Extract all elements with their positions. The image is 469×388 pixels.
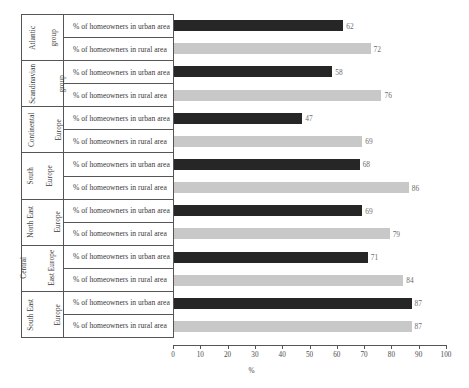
bar-urban xyxy=(174,205,362,216)
series-label: % of homeowners in urban area xyxy=(64,153,173,176)
series-label: % of homeowners in rural area xyxy=(64,38,173,60)
bar-value-label: 86 xyxy=(409,183,419,192)
bar-row: 47 xyxy=(174,113,302,124)
bar-rural xyxy=(174,321,412,332)
bar-urban xyxy=(174,159,360,170)
bar-row: 72 xyxy=(174,43,371,54)
x-axis-tick-label: 30 xyxy=(251,351,258,359)
x-axis-tick xyxy=(337,345,338,349)
bar-rural xyxy=(174,182,409,193)
category-name-cell: South EastEurope xyxy=(22,292,64,337)
series-label-cell: % of homeowners in urban area% of homeow… xyxy=(64,153,173,198)
bar-value-label: 68 xyxy=(360,160,370,169)
bar-row: 58 xyxy=(174,66,332,77)
series-label-cell: % of homeowners in urban area% of homeow… xyxy=(64,292,173,337)
category-label-table: Atlanticgroup% of homeowners in urban ar… xyxy=(21,14,173,338)
bar-value-label: 76 xyxy=(381,91,391,100)
category-name-label: Scandinavian xyxy=(30,64,38,104)
x-axis-tick-label: 80 xyxy=(388,351,395,359)
category-group-row: Atlanticgroup% of homeowners in urban ar… xyxy=(22,15,173,61)
series-label: % of homeowners in urban area xyxy=(64,15,173,38)
bar-rural xyxy=(174,136,362,147)
series-label-cell: % of homeowners in urban area% of homeow… xyxy=(64,246,173,291)
series-label-cell: % of homeowners in urban area% of homeow… xyxy=(64,15,173,60)
category-group-row: Scandinaviangroup% of homeowners in urba… xyxy=(22,61,173,107)
category-name-cell: Atlanticgroup xyxy=(22,15,64,60)
bar-value-label: 87 xyxy=(412,322,422,331)
x-axis-tick xyxy=(282,345,283,349)
bar-row: 62 xyxy=(174,20,343,31)
category-name-cell: North EastEurope xyxy=(22,200,64,245)
bar-row: 87 xyxy=(174,298,412,309)
bar-urban xyxy=(174,66,332,77)
category-name-label: group xyxy=(51,29,59,46)
category-name-cell: CentralEast Europe xyxy=(22,246,64,291)
x-axis-tick xyxy=(200,345,201,349)
bar-row: 86 xyxy=(174,182,409,193)
category-group-row: South EastEurope% of homeowners in urban… xyxy=(22,292,173,337)
bar-value-label: 62 xyxy=(343,21,353,30)
bar-value-label: 69 xyxy=(362,206,372,215)
x-axis-tick xyxy=(310,345,311,349)
x-axis-tick-label: 20 xyxy=(224,351,231,359)
bar-urban xyxy=(174,298,412,309)
bar-value-label: 58 xyxy=(332,67,342,76)
category-name-label: group xyxy=(59,75,67,92)
bar-chart: Atlanticgroup% of homeowners in urban ar… xyxy=(0,0,469,388)
x-axis-tick xyxy=(364,345,365,349)
x-axis-tick xyxy=(391,345,392,349)
x-axis-tick-label: 70 xyxy=(361,351,368,359)
series-label-cell: % of homeowners in urban area% of homeow… xyxy=(64,107,173,152)
x-axis-title: % xyxy=(0,366,469,375)
series-label: % of homeowners in rural area xyxy=(64,223,173,245)
category-group-row: North EastEurope% of homeowners in urban… xyxy=(22,200,173,246)
category-name-label: Europe xyxy=(47,165,55,186)
series-label: % of homeowners in urban area xyxy=(64,246,173,269)
x-axis-tick-label: 100 xyxy=(441,351,452,359)
category-group-row: SouthEurope% of homeowners in urban area… xyxy=(22,153,173,199)
series-label-cell: % of homeowners in urban area% of homeow… xyxy=(64,61,173,106)
series-label: % of homeowners in urban area xyxy=(64,61,173,84)
category-name-label: Europe xyxy=(55,211,63,232)
category-name-label: Europe xyxy=(55,304,63,325)
category-name-label: Continental xyxy=(28,113,36,148)
bar-rural xyxy=(174,90,381,101)
series-label: % of homeowners in urban area xyxy=(64,292,173,315)
category-name-label: Central xyxy=(21,257,29,279)
bar-row: 68 xyxy=(174,159,360,170)
x-axis-tick-label: 0 xyxy=(171,351,175,359)
x-axis-tick xyxy=(255,345,256,349)
category-name-label: South xyxy=(28,167,36,184)
bar-value-label: 69 xyxy=(362,137,372,146)
bar-rural xyxy=(174,228,390,239)
x-axis-tick-label: 50 xyxy=(306,351,313,359)
x-axis-tick-label: 40 xyxy=(279,351,286,359)
bar-value-label: 84 xyxy=(403,276,413,285)
category-name-label: Atlantic xyxy=(30,26,38,50)
bar-row: 79 xyxy=(174,228,390,239)
x-axis-title-text: % xyxy=(214,366,254,375)
bar-urban xyxy=(174,252,368,263)
x-axis-tick xyxy=(173,345,174,349)
bar-row: 76 xyxy=(174,90,381,101)
series-label: % of homeowners in rural area xyxy=(64,84,173,106)
series-label: % of homeowners in rural area xyxy=(64,269,173,291)
series-label-cell: % of homeowners in urban area% of homeow… xyxy=(64,200,173,245)
bar-row: 69 xyxy=(174,136,362,147)
series-label: % of homeowners in rural area xyxy=(64,177,173,199)
category-name-cell: Scandinaviangroup xyxy=(22,61,64,106)
bar-row: 87 xyxy=(174,321,412,332)
category-name-label: South East xyxy=(28,298,36,330)
series-label: % of homeowners in rural area xyxy=(64,130,173,152)
x-axis-line: 0102030405060708090100 xyxy=(173,345,447,346)
bar-row: 71 xyxy=(174,252,368,263)
plot-area: 6272587647696886697971848787 xyxy=(173,14,447,338)
bar-row: 84 xyxy=(174,275,403,286)
bar-rural xyxy=(174,275,403,286)
y-axis-line xyxy=(173,14,174,338)
category-name-label: East Europe xyxy=(50,250,58,286)
bar-urban xyxy=(174,113,302,124)
series-label: % of homeowners in urban area xyxy=(64,107,173,130)
series-label: % of homeowners in urban area xyxy=(64,200,173,223)
bar-value-label: 79 xyxy=(390,229,400,238)
